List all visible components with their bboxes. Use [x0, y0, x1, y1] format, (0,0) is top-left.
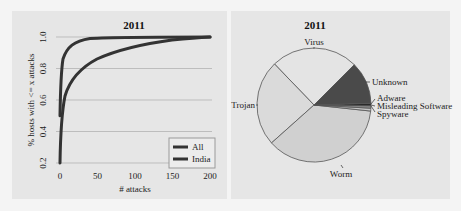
y-axis-label: % hosts with <= x attacks: [26, 53, 36, 146]
x-tick: 50: [93, 171, 103, 181]
x-tick: 200: [203, 171, 217, 181]
pie-label-unknown: Unknown: [372, 77, 408, 87]
x-axis-label: # attacks: [119, 184, 151, 194]
cdf-chart-title: 2011: [123, 19, 144, 31]
x-tick: 100: [128, 171, 142, 181]
legend: All India: [169, 138, 215, 168]
legend-item-india: India: [192, 154, 211, 164]
x-tick-labels: 0 50 100 150 200: [58, 171, 218, 181]
pie-label-worm: Worm: [330, 169, 352, 179]
pie-slices: [257, 48, 371, 162]
y-tick: 0.2: [38, 157, 48, 168]
pie-label-trojan: Trojan: [231, 100, 255, 110]
legend-item-all: All: [192, 142, 204, 152]
x-tick: 150: [166, 171, 180, 181]
y-tick: 0.8: [38, 62, 48, 74]
pie-chart-title: 2011: [304, 19, 325, 31]
pie-label-spyware: Spyware: [377, 109, 409, 119]
x-tick: 0: [58, 171, 63, 181]
series-line-all: [60, 37, 210, 116]
y-tick-labels: 1.0 0.8 0.6 0.4 0.2: [38, 31, 48, 169]
pie-chart: 2011 Virus Trojan Worm Unknown Adware Mi…: [231, 11, 450, 199]
pie-label-virus: Virus: [304, 37, 324, 47]
y-tick: 0.4: [38, 125, 48, 137]
y-tick: 1.0: [38, 31, 48, 43]
cdf-chart-panel: 2011 1.0 0.8 0.6 0.4 0.2 % hosts with <=…: [12, 11, 227, 199]
y-tick: 0.6: [38, 94, 48, 106]
cdf-chart: 2011 1.0 0.8 0.6 0.4 0.2 % hosts with <=…: [12, 11, 227, 199]
pie-chart-panel: 2011 Virus Trojan Worm Unknown Adware Mi…: [231, 11, 450, 199]
